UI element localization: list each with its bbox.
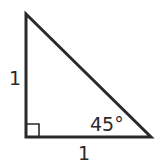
angle-label: 45° (90, 113, 124, 135)
triangle-shape (26, 14, 151, 137)
left-leg-label: 1 (9, 67, 21, 89)
right-angle-marker (26, 124, 39, 137)
triangle-diagram: 1 1 45° (0, 0, 162, 164)
bottom-leg-label: 1 (78, 142, 90, 164)
